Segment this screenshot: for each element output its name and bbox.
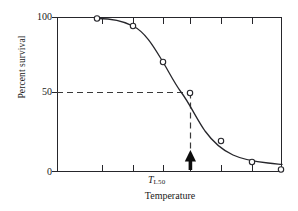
data-point [278, 167, 283, 172]
y-axis-title: Percent survival [17, 7, 27, 127]
data-point [94, 16, 99, 21]
y-tick-label-50: 50 [14, 86, 52, 97]
y-ticks [52, 18, 57, 172]
data-point [160, 59, 165, 64]
data-point [130, 23, 135, 28]
plot-area-background [57, 17, 282, 172]
x-axis-title: Temperature [57, 190, 283, 201]
tl50-subscript: L50 [154, 178, 166, 186]
y-tick-label-0: 0 [14, 166, 52, 177]
data-point [218, 138, 223, 143]
data-point [187, 90, 192, 95]
tl50-annotation-label: TL50 [148, 174, 165, 186]
y-tick-label-100: 100 [14, 11, 52, 22]
figure-container: Percent survival 100 50 0 TL50 Temperatu… [0, 0, 298, 211]
data-point [249, 159, 254, 164]
